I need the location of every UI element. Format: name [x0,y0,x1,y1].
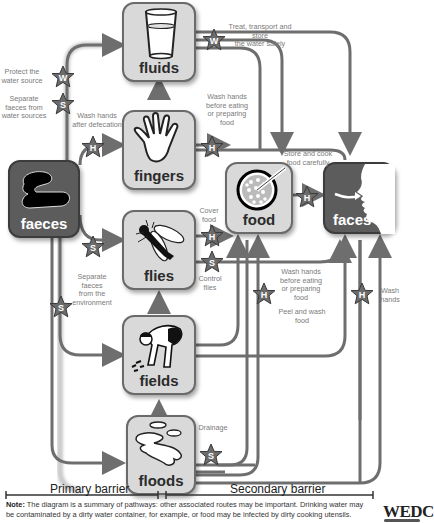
label-treat-transport-store: Treat, transport and store the water saf… [222,23,298,49]
label-control-flies: Control flies [196,275,224,292]
hand-icon [124,112,198,172]
node-fingers: fingers [122,110,196,190]
label-drainage: Drainage [198,424,228,433]
primary-barrier-label: Primary barrier [50,482,129,496]
secondary-barrier-label: Secondary barrier [230,482,325,496]
label-store-cook: Store and cook food carefully [280,150,336,167]
node-faces: faces [323,162,395,234]
node-faeces: faeces [8,160,80,238]
label-cover-food: Cover food [196,207,222,224]
label-separate-faeces-env: Separate faeces from the environment [66,273,118,307]
node-label-floods: floods [128,472,194,489]
node-label-food: food [227,211,291,228]
label-wash-before-eating-mid: Wash hands before eating or preparing fo… [276,268,326,302]
node-food: food [225,162,293,234]
node-label-faeces: faeces [10,215,78,232]
label-separate-faeces-water: Separate faeces from water sources [0,95,48,121]
node-label-fingers: fingers [124,167,194,184]
wedc-logo-underline [384,519,420,522]
node-fields: fields [122,315,196,395]
node-label-fields: fields [124,372,194,389]
label-protect-water-source: Protect the water source [0,68,44,85]
note-text: The diagram is a summary of pathways: ot… [6,500,363,519]
note-prefix: Note: [6,500,25,509]
label-wash-hands: Wash hands [378,287,402,304]
node-fluids: fluids [122,2,196,82]
glass-icon [124,4,198,64]
node-label-fluids: fluids [124,59,194,76]
node-label-faces: faces [325,211,393,228]
node-label-flies: flies [124,267,194,284]
puddle-icon [128,417,198,477]
label-wash-before-eating-top: Wash hands before eating or preparing fo… [204,93,250,127]
person-bending-icon [124,317,198,377]
faeces-icon [10,162,82,222]
label-peel-wash: Peel and wash food [276,308,328,325]
fly-icon [124,212,198,272]
node-flies: flies [122,210,196,290]
node-floods: floods [126,415,196,495]
label-wash-after-defecation: Wash hands after defecation [70,112,124,129]
footnote: Note: The diagram is a summary of pathwa… [6,500,366,520]
